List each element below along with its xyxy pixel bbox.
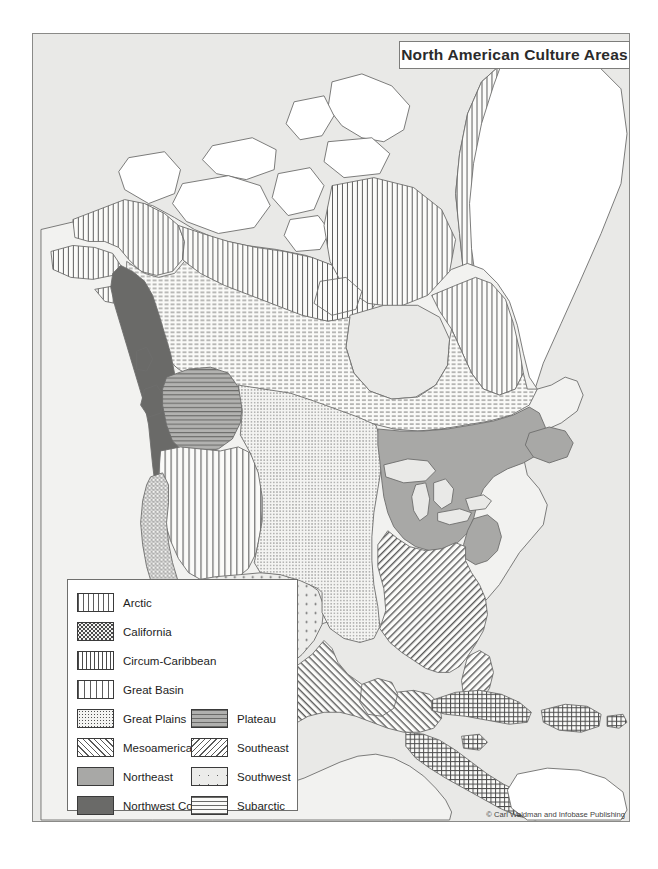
- legend-item-southeast[interactable]: Southeast: [191, 733, 295, 762]
- legend-swatch-northwest-coast: [77, 796, 114, 815]
- legend-item-circum-caribbean[interactable]: Circum-Caribbean: [77, 646, 199, 675]
- legend-swatch-northeast: [77, 767, 114, 786]
- legend-label-northeast: Northeast: [123, 771, 173, 783]
- legend-item-arctic[interactable]: Arctic: [77, 588, 199, 617]
- legend-swatch-california: [77, 622, 114, 641]
- legend-label-circum-caribbean: Circum-Caribbean: [123, 655, 216, 667]
- legend-swatch-circum-caribbean: [77, 651, 114, 670]
- region-plateau: [163, 367, 243, 453]
- legend-item-plateau[interactable]: Plateau: [191, 704, 295, 733]
- legend-label-southwest: Southwest: [237, 771, 291, 783]
- legend-swatch-great-basin: [77, 680, 114, 699]
- legend-item-southwest[interactable]: Southwest: [191, 762, 295, 791]
- legend-label-great-plains: Great Plains: [123, 713, 186, 725]
- copyright-credit: © Carl Waldman and Infobase Publishing: [486, 810, 625, 819]
- map-title-plate: North American Culture Areas: [399, 41, 630, 69]
- map-frame: North American Culture Areas Arctic Cali…: [32, 33, 630, 822]
- legend-label-mesoamerica: Mesoamerica: [123, 742, 192, 754]
- legend-label-southeast: Southeast: [237, 742, 289, 754]
- map-legend: Arctic California Circum-Caribbean Great…: [67, 579, 298, 811]
- water-lake-superior: [384, 459, 436, 483]
- legend-swatch-mesoamerica: [77, 738, 114, 757]
- legend-column-primary: Arctic California Circum-Caribbean Great…: [77, 588, 199, 820]
- legend-item-california[interactable]: California: [77, 617, 199, 646]
- legend-swatch-arctic: [77, 593, 114, 612]
- legend-label-great-basin: Great Basin: [123, 684, 184, 696]
- legend-item-northwest-coast[interactable]: Northwest Coast: [77, 791, 199, 820]
- legend-swatch-southeast: [191, 738, 228, 757]
- legend-swatch-great-plains: [77, 709, 114, 728]
- legend-item-subarctic[interactable]: Subarctic: [191, 791, 295, 820]
- legend-column-secondary: Plateau Southeast Southwest Subarctic: [191, 704, 295, 820]
- legend-label-california: California: [123, 626, 172, 638]
- legend-item-mesoamerica[interactable]: Mesoamerica: [77, 733, 199, 762]
- legend-swatch-subarctic: [191, 796, 228, 815]
- legend-label-plateau: Plateau: [237, 713, 276, 725]
- legend-label-subarctic: Subarctic: [237, 800, 285, 812]
- legend-swatch-plateau: [191, 709, 228, 728]
- legend-item-great-basin[interactable]: Great Basin: [77, 675, 199, 704]
- legend-item-northeast[interactable]: Northeast: [77, 762, 199, 791]
- legend-item-great-plains[interactable]: Great Plains: [77, 704, 199, 733]
- legend-label-arctic: Arctic: [123, 597, 152, 609]
- legend-swatch-southwest: [191, 767, 228, 786]
- page-title: North American Culture Areas: [401, 46, 628, 64]
